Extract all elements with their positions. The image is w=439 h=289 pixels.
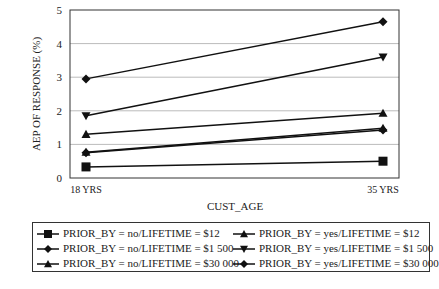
diamond-marker-icon: [379, 125, 388, 134]
triangle-down-legend-icon: [233, 244, 255, 254]
y-tick-label: 0: [57, 172, 63, 184]
legend-label: PRIOR_BY = yes/LIFETIME = $12: [259, 226, 420, 241]
series-line: [82, 157, 388, 172]
y-tick-label: 1: [57, 138, 63, 150]
legend-label: PRIOR_BY = no/LIFETIME = $12: [63, 226, 220, 241]
diamond-legend-icon: [233, 259, 255, 269]
legend-item: PRIOR_BY = no/LIFETIME = $12: [37, 226, 233, 241]
diamond-legend-icon: [37, 244, 59, 254]
legend-label: PRIOR_BY = no/LIFETIME = $1 500: [63, 241, 234, 256]
legend-item: PRIOR_BY = yes/LIFETIME = $12: [233, 226, 433, 241]
legend-label: PRIOR_BY = yes/LIFETIME = $1 500: [259, 241, 433, 256]
diamond-marker-icon: [44, 245, 52, 253]
legend-item: PRIOR_BY = no/LIFETIME = $1 500: [37, 241, 233, 256]
y-axis-label: AEP OF RESPONSE (%): [30, 37, 43, 152]
y-tick-label: 4: [57, 38, 63, 50]
triangle-up-legend-icon: [37, 259, 59, 269]
series-line: [82, 17, 388, 83]
diamond-marker-icon: [82, 74, 91, 83]
y-tick-label: 2: [57, 105, 63, 117]
series-line: [82, 124, 388, 156]
y-axis-ticks: 012345: [57, 4, 63, 184]
square-legend-icon: [37, 229, 59, 239]
series-lines: [82, 17, 388, 171]
legend-item: PRIOR_BY = yes/LIFETIME = $1 500: [233, 241, 433, 256]
square-marker-icon: [379, 157, 388, 166]
square-marker-icon: [82, 162, 91, 171]
line-chart: 012345 18 YRS35 YRS AEP OF RESPONSE (%) …: [0, 0, 437, 215]
plot-area-border: [70, 10, 399, 178]
square-marker-icon: [44, 230, 52, 238]
y-tick-label: 3: [57, 71, 63, 83]
x-axis-ticks: 18 YRS35 YRS: [70, 184, 399, 195]
legend-item: PRIOR_BY = no/LIFETIME = $30 000: [37, 256, 233, 271]
x-tick-label: 35 YRS: [367, 184, 399, 195]
diamond-marker-icon: [240, 260, 248, 268]
triangle-down-marker-icon: [82, 112, 91, 120]
y-tick-label: 5: [57, 4, 63, 16]
diamond-marker-icon: [82, 148, 91, 157]
triangle-up-legend-icon: [233, 229, 255, 239]
x-tick-label: 18 YRS: [70, 184, 102, 195]
diamond-marker-icon: [379, 17, 388, 26]
legend-item: PRIOR_BY = yes/LIFETIME = $30 000: [233, 256, 433, 271]
chart-legend: PRIOR_BY = no/LIFETIME = $12PRIOR_BY = y…: [32, 222, 430, 272]
gridlines: [70, 44, 399, 145]
legend-label: PRIOR_BY = no/LIFETIME = $30 000: [63, 256, 239, 271]
x-axis-label: CUST_AGE: [207, 200, 264, 212]
legend-label: PRIOR_BY = yes/LIFETIME = $30 000: [259, 256, 439, 271]
series-line: [82, 125, 388, 157]
